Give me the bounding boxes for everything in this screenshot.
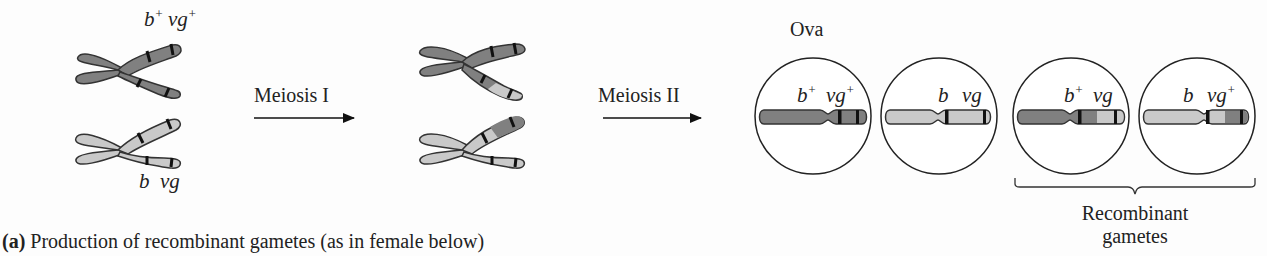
ovum-parental-recessive: b vg: [881, 58, 997, 174]
allele-label-b: b: [139, 169, 150, 193]
svg-text:b: b: [1183, 83, 1194, 107]
ova-title: Ova: [790, 18, 823, 40]
recombinant-brace: [1015, 178, 1255, 194]
crossover-chromosome-top: [420, 43, 525, 100]
recombinant-gametes-diagram: b+ vg+ b vg Meiosis I Meiosis II: [0, 0, 1267, 256]
allele-label-vg-plus: vg+: [168, 6, 197, 31]
caption-prefix: (a): [2, 230, 25, 253]
allele-label-vg: vg: [160, 169, 180, 193]
recombinant-label-line1: Recombinant: [1082, 202, 1189, 224]
ovum-parental-dominant: b+ vg+: [755, 58, 871, 174]
ovum-recombinant-2: b vg+: [1139, 58, 1255, 174]
recombinant-label-line2: gametes: [1102, 225, 1168, 248]
parent-chromosome-dominant: [76, 44, 181, 98]
svg-text:vg: vg: [1093, 83, 1113, 107]
crossover-chromosome-bottom: [420, 116, 525, 168]
ovum-recombinant-1: b+ vg: [1013, 58, 1129, 174]
meiosis-1-label: Meiosis I: [254, 84, 329, 106]
parent-chromosome-recessive: [76, 119, 181, 168]
svg-text:vg: vg: [962, 83, 982, 107]
meiosis-2-label: Meiosis II: [598, 84, 680, 106]
allele-label-b-plus: b+: [144, 6, 163, 31]
svg-text:b: b: [938, 83, 949, 107]
figure-caption: (a) Production of recombinant gametes (a…: [2, 230, 484, 253]
